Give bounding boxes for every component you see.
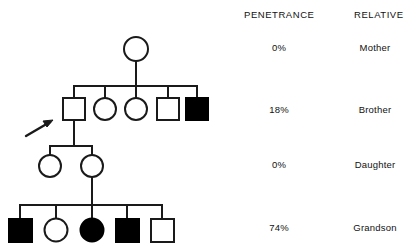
- gen2-female-unaffected-2: [125, 98, 147, 120]
- gen4-male-unaffected: [151, 219, 174, 242]
- gen3-female-unaffected-1: [39, 155, 61, 177]
- column-header-relative: RELATIVE: [354, 9, 404, 20]
- table-row: 18% Brother: [230, 104, 418, 120]
- pedigree-figure: PENETRANCE RELATIVE 0% Mother 18% Brothe…: [0, 0, 418, 251]
- proband-arrow-icon: [26, 120, 53, 136]
- gen2-male-proband: [63, 98, 85, 120]
- table-row: 0% Daughter: [230, 159, 418, 175]
- relative-label: Grandson: [334, 222, 416, 233]
- penetrance-value: 74%: [230, 222, 328, 233]
- table-row: 0% Mother: [230, 42, 418, 58]
- gen2-male-affected: [186, 98, 208, 120]
- relative-label: Mother: [334, 42, 416, 53]
- penetrance-value: 0%: [230, 159, 328, 170]
- gen1-female-unaffected: [124, 37, 148, 61]
- gen4-male-affected-2: [116, 219, 139, 242]
- penetrance-value: 0%: [230, 42, 328, 53]
- relative-label: Daughter: [334, 159, 416, 170]
- gen4-female-unaffected: [45, 219, 68, 242]
- gen2-male-unaffected: [157, 98, 179, 120]
- table-row: 74% Grandson: [230, 222, 418, 238]
- gen4-male-affected-1: [9, 219, 32, 242]
- gen3-female-unaffected-2: [81, 155, 103, 177]
- penetrance-table: PENETRANCE RELATIVE 0% Mother 18% Brothe…: [230, 0, 418, 251]
- gen4-female-affected: [81, 219, 104, 242]
- pedigree-diagram: [0, 0, 230, 251]
- relative-label: Brother: [334, 104, 416, 115]
- gen2-female-unaffected-1: [94, 98, 116, 120]
- penetrance-value: 18%: [230, 104, 328, 115]
- column-header-penetrance: PENETRANCE: [244, 9, 314, 20]
